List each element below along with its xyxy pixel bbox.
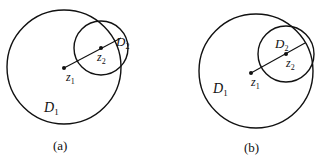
label-z2-b: z2 (285, 56, 295, 72)
figure-canvas: z1 z2 D2 D1 (a) z1 z2 D2 D1 (b) (0, 0, 319, 163)
caption-b: (b) (244, 140, 259, 155)
panel-a: z1 z2 D2 D1 (a) (7, 10, 129, 153)
panel-b: z1 z2 D2 D1 (b) (199, 14, 314, 155)
radius-line-a (64, 38, 121, 68)
circle-d1-b (199, 14, 313, 128)
label-d1-b: D1 (212, 81, 228, 98)
label-z2-a: z2 (96, 50, 106, 66)
label-z1-b: z1 (250, 75, 260, 91)
label-d1-a: D1 (43, 100, 59, 117)
caption-a: (a) (53, 138, 67, 153)
label-d2-a: D2 (115, 34, 129, 51)
label-z1-a: z1 (65, 70, 75, 86)
label-d2-b: D2 (274, 36, 288, 53)
